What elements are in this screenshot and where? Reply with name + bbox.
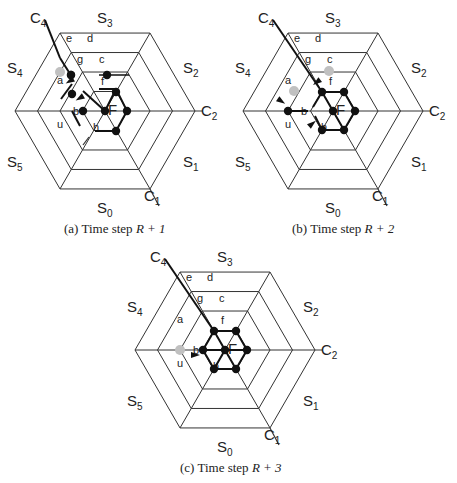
cell-label-g: g [77, 53, 83, 65]
sector-label-s4: S4 [127, 298, 143, 318]
node-u [284, 107, 292, 115]
sector-label-s4-subscript: 4 [137, 307, 143, 318]
node-hex-4 [210, 365, 218, 373]
caption-a-prefix: (a) Time step [64, 221, 136, 236]
node-right [123, 107, 131, 115]
sector-label-s5-subscript: 5 [137, 401, 143, 412]
sector-label-s0: S0 [325, 199, 341, 219]
node-hex-5 [232, 365, 240, 373]
sector-label-s2-subscript: 2 [421, 68, 427, 79]
node-hex-0 [243, 346, 251, 354]
caption-a: (a) Time step R + 1 [64, 221, 166, 236]
node-hex-3 [199, 346, 207, 354]
sector-label-s2: S2 [303, 298, 319, 318]
node-f-center [329, 107, 337, 115]
bold-path-c4 [273, 20, 322, 92]
sector-label-s3: S3 [217, 248, 233, 268]
arrow-u [276, 96, 285, 104]
caption-b-math: R + 2 [364, 221, 395, 236]
cell-label-e: e [186, 271, 192, 283]
sector-label-s5-subscript: 5 [17, 162, 23, 173]
node-hex-2 [210, 327, 218, 335]
sector-label-s4: S4 [235, 59, 251, 79]
cell-label-f: f [221, 314, 225, 326]
cell-label-f: f [329, 75, 333, 87]
sector-label-s5: S5 [127, 392, 143, 412]
figure-canvas: S0S1S2S3S4S5C2C1C4edgcafbuhFS0S1S2S3S4S5… [0, 0, 457, 483]
cell-label-a: a [177, 313, 184, 325]
sector-label-s5-subscript: 5 [245, 162, 251, 173]
corridor-label-c4: C4 [30, 9, 47, 29]
bold-path-f-center [83, 91, 105, 111]
cell-label-d: d [207, 271, 213, 283]
cell-label-c: c [99, 53, 105, 65]
corridor-label-c4: C4 [150, 248, 167, 268]
cell-label-c: c [327, 53, 333, 65]
caption-c-prefix: (c) Time step [180, 460, 252, 475]
node-g-gray [55, 67, 65, 77]
arrow-h [307, 121, 316, 129]
node-a-gray [289, 86, 299, 96]
caption-c: (c) Time step R + 3 [180, 460, 282, 475]
node-a [68, 90, 76, 98]
sector-label-s4: S4 [7, 59, 23, 79]
caption-a-math: R + 1 [135, 221, 166, 236]
node-c2 [103, 71, 111, 79]
corridor-label-c2-subscript: 2 [212, 111, 218, 122]
sector-label-s2-subscript: 2 [193, 68, 199, 79]
center-label-f: F [336, 101, 345, 118]
arrow-b [76, 93, 85, 100]
node-hex-1 [232, 327, 240, 335]
cell-label-e: e [66, 32, 72, 44]
node-f-center [101, 107, 109, 115]
center-label-f: F [228, 340, 237, 357]
corridor-label-c2: C2 [201, 102, 218, 122]
sector-label-s2: S2 [411, 59, 427, 79]
node-f [318, 88, 326, 96]
corridor-label-c4: C4 [258, 9, 275, 29]
sector-label-s3: S3 [97, 9, 113, 29]
bold-path-c4 [45, 20, 60, 58]
sector-label-s1: S1 [411, 153, 427, 173]
sector-label-s4-subscript: 4 [17, 68, 23, 79]
sector-label-s3-subscript: 3 [227, 257, 233, 268]
corridor-label-c2: C2 [429, 102, 446, 122]
node-bottom [112, 127, 120, 135]
node-b [79, 107, 87, 115]
node-u-gray [175, 345, 185, 355]
sector-label-s1: S1 [183, 153, 199, 173]
sector-label-s3: S3 [325, 9, 341, 29]
node-c-gray [324, 66, 334, 76]
corridor-label-c2-subscript: 2 [332, 350, 338, 361]
hex-diagram-b: S0S1S2S3S4S5C2C1C4edgcafbuhF [235, 9, 446, 219]
sector-label-s1-subscript: 1 [421, 162, 427, 173]
sector-label-s0: S0 [97, 199, 113, 219]
corridor-label-c1: C1 [144, 187, 161, 207]
cell-label-u: u [57, 118, 63, 130]
cell-label-d: d [87, 32, 93, 44]
sector-label-s4-subscript: 4 [245, 68, 251, 79]
hex-diagram-c: S0S1S2S3S4S5C2C1C4edgcafbuhF [127, 248, 338, 458]
cell-label-u: u [177, 357, 183, 369]
sector-label-s3-subscript: 3 [335, 18, 341, 29]
cell-label-e: e [294, 32, 300, 44]
cell-label-d: d [315, 32, 321, 44]
sector-label-s1: S1 [303, 392, 319, 412]
hex-diagram-a: S0S1S2S3S4S5C2C1C4edgcafbuhF [7, 9, 218, 219]
sector-label-s0-subscript: 0 [335, 208, 341, 219]
sector-label-s1-subscript: 1 [193, 162, 199, 173]
sector-label-s3-subscript: 3 [107, 18, 113, 29]
node-f [112, 88, 120, 96]
node-h [318, 126, 326, 134]
corridor-label-c1-subscript: 1 [383, 196, 389, 207]
cell-label-g: g [305, 53, 311, 65]
sector-label-s5: S5 [235, 153, 251, 173]
cell-label-c: c [219, 292, 225, 304]
caption-b-prefix: (b) Time step [292, 221, 365, 236]
sector-label-s2: S2 [183, 59, 199, 79]
cell-label-g: g [197, 292, 203, 304]
sector-label-s1-subscript: 1 [313, 401, 319, 412]
corridor-label-c1: C1 [372, 187, 389, 207]
node-right [351, 107, 359, 115]
sector-label-s5: S5 [7, 153, 23, 173]
